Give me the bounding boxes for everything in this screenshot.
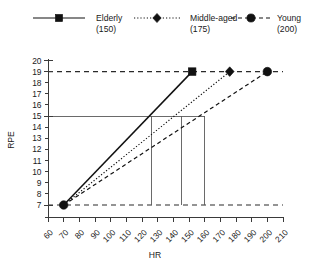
- y-tick-label-20: 20: [32, 56, 42, 66]
- x-tick-label-110: 110: [117, 227, 134, 244]
- x-axis-title: HR: [149, 250, 161, 260]
- x-tick-label-200: 200: [257, 227, 274, 244]
- x-tick-label-170: 170: [210, 227, 227, 244]
- y-tick-label-8: 8: [37, 189, 42, 199]
- legend-label-1: Middle-aged: [190, 13, 238, 23]
- origin-marker: [59, 201, 68, 210]
- x-tick-label-160: 160: [195, 227, 212, 244]
- y-axis-title: RPE: [6, 131, 16, 149]
- y-tick-label-12: 12: [32, 144, 42, 154]
- x-tick-label-210: 210: [273, 227, 290, 244]
- endpoint-marker-young: [263, 67, 272, 76]
- x-tick-label-180: 180: [226, 227, 243, 244]
- y-tick-label-17: 17: [32, 89, 42, 99]
- x-tick-label-80: 80: [73, 227, 87, 241]
- y-tick-label-16: 16: [32, 100, 42, 110]
- diamond-marker-icon: [153, 13, 161, 22]
- x-tick-label-150: 150: [179, 227, 196, 244]
- x-tick-label-140: 140: [163, 227, 180, 244]
- x-tick-label-190: 190: [242, 227, 259, 244]
- legend-sublabel-1: (175): [190, 24, 210, 34]
- rpe-hr-chart: Elderly(150)Middle-aged(175)Young(200)78…: [0, 0, 309, 267]
- x-tick-label-90: 90: [88, 227, 102, 241]
- y-tick-label-15: 15: [32, 111, 42, 121]
- legend-sublabel-2: (200): [277, 24, 297, 34]
- endpoint-marker-elderly: [188, 68, 196, 76]
- circle-marker-icon: [247, 14, 255, 22]
- x-tick-label-60: 60: [41, 227, 55, 241]
- chart-canvas: Elderly(150)Middle-aged(175)Young(200)78…: [0, 0, 309, 267]
- y-tick-label-18: 18: [32, 78, 42, 88]
- square-marker-icon: [55, 14, 62, 21]
- series-line-young: [64, 72, 268, 205]
- legend-label-2: Young: [277, 13, 301, 23]
- y-tick-label-9: 9: [37, 178, 42, 188]
- y-tick-label-11: 11: [33, 156, 42, 166]
- x-tick-label-120: 120: [132, 227, 149, 244]
- endpoint-marker-middle-aged: [225, 67, 234, 77]
- series-line-elderly: [64, 72, 192, 205]
- x-tick-label-100: 100: [101, 227, 118, 244]
- legend-sublabel-0: (150): [96, 24, 116, 34]
- y-tick-label-7: 7: [37, 200, 42, 210]
- x-tick-label-70: 70: [57, 227, 71, 241]
- legend-label-0: Elderly: [96, 13, 123, 23]
- y-tick-label-13: 13: [32, 133, 42, 143]
- y-tick-label-10: 10: [32, 167, 42, 177]
- y-tick-label-19: 19: [32, 67, 42, 77]
- x-tick-label-130: 130: [148, 227, 165, 244]
- y-tick-label-14: 14: [32, 122, 42, 132]
